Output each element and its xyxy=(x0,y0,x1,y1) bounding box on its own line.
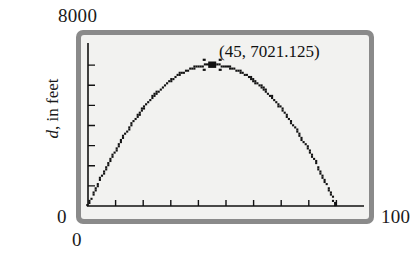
curve-point xyxy=(156,91,158,93)
curve-point xyxy=(193,68,195,70)
y-axis-title-units: , in feet xyxy=(43,79,62,130)
curve-point xyxy=(321,177,323,179)
curve-point xyxy=(294,126,296,128)
curve-point xyxy=(132,120,134,122)
curve-point xyxy=(128,126,130,128)
y-axis-max-label: 8000 xyxy=(58,6,97,25)
curve-point xyxy=(126,131,128,133)
vertex-marker-arm xyxy=(219,69,222,71)
x-axis-ticks xyxy=(116,200,337,206)
curve-point xyxy=(296,131,298,133)
curve-point xyxy=(216,63,218,65)
curve-point xyxy=(109,158,111,160)
curve-point xyxy=(95,187,97,189)
curve-point xyxy=(315,162,317,164)
curve-point xyxy=(145,103,147,105)
curve-point xyxy=(296,128,298,130)
curve-point xyxy=(309,152,311,154)
curve-point xyxy=(143,105,145,107)
y-axis-ticks xyxy=(88,65,95,186)
x-axis-max-label: 100 xyxy=(381,207,410,226)
curve-point xyxy=(149,99,151,101)
curve-point xyxy=(321,175,323,177)
curve-point xyxy=(298,135,300,137)
curve-point xyxy=(107,162,109,164)
curve-point xyxy=(298,133,300,135)
curve-point xyxy=(290,122,292,124)
curve-point xyxy=(170,78,172,80)
curve-point xyxy=(237,70,239,72)
curve-point xyxy=(181,72,183,74)
curve-point xyxy=(189,68,191,70)
curve-point xyxy=(153,93,155,95)
curve-point xyxy=(124,133,126,135)
curve-point xyxy=(200,65,202,67)
curve-point xyxy=(288,118,290,120)
curve-point xyxy=(97,183,99,185)
y-axis-zero-label: 0 xyxy=(57,207,67,226)
curve-point xyxy=(99,179,101,181)
curve-point xyxy=(252,78,254,80)
curve-point xyxy=(137,114,139,116)
curve-point xyxy=(324,179,326,181)
curve-point xyxy=(307,147,309,149)
curve-point xyxy=(139,112,141,114)
curve-point xyxy=(290,120,292,122)
curve-point xyxy=(206,63,208,65)
curve-point xyxy=(261,84,263,86)
curve-point xyxy=(254,82,256,84)
curve-point xyxy=(130,122,132,124)
curve-point xyxy=(319,170,321,172)
curve-point xyxy=(168,80,170,82)
curve-point xyxy=(95,189,97,191)
curve-point xyxy=(130,124,132,126)
curve-point xyxy=(271,97,273,99)
curve-point xyxy=(334,202,336,204)
curve-point xyxy=(223,65,225,67)
curve-point xyxy=(116,147,118,149)
curve-point xyxy=(229,65,231,67)
curve-point xyxy=(101,175,103,177)
calculator-screen-bezel: (45, 7021.125) xyxy=(76,30,374,224)
curve-point xyxy=(246,74,248,76)
curve-point xyxy=(151,97,153,99)
curve-point xyxy=(118,145,120,147)
curve-point xyxy=(103,170,105,172)
curve-point xyxy=(332,196,334,198)
curve-point xyxy=(202,65,204,67)
curve-point xyxy=(282,110,284,112)
curve-point xyxy=(330,191,332,193)
plot-area: (45, 7021.125) xyxy=(81,35,369,219)
curve-point xyxy=(317,166,319,168)
curve-point xyxy=(156,93,158,95)
curve-point xyxy=(286,114,288,116)
curve-point xyxy=(93,191,95,193)
curve-point xyxy=(120,141,122,143)
figure-root: 8000 0 0 100 d, in feet (45, 702 xyxy=(0,0,416,253)
curve-point xyxy=(109,160,111,162)
curve-point xyxy=(221,65,223,67)
curve-point xyxy=(250,76,252,78)
curve-point xyxy=(116,149,118,151)
curve-point xyxy=(141,110,143,112)
curve-point xyxy=(273,99,275,101)
curve-point xyxy=(334,204,336,206)
curve-point xyxy=(326,183,328,185)
curve-point xyxy=(227,65,229,67)
curve-point xyxy=(328,187,330,189)
curve-point xyxy=(158,91,160,93)
curve-point xyxy=(277,103,279,105)
curve-point xyxy=(319,173,321,175)
curve-point xyxy=(229,68,231,70)
vertex-marker-arm xyxy=(203,59,206,61)
curve-point xyxy=(219,63,221,65)
x-axis-zero-label: 0 xyxy=(72,230,82,249)
curve-point xyxy=(258,84,260,86)
curve-point xyxy=(99,177,101,179)
curve-point xyxy=(164,84,166,86)
curve-point xyxy=(162,86,164,88)
curve-point xyxy=(122,137,124,139)
curve-point xyxy=(137,116,139,118)
curve-point xyxy=(330,194,332,196)
curve-point xyxy=(183,72,185,74)
